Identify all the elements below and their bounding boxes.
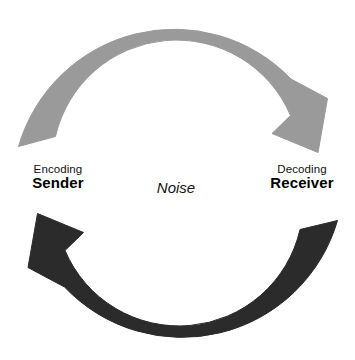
receiver-label-group: Decoding Receiver [250, 163, 354, 192]
noise-label-group: Noise [126, 180, 226, 196]
sender-to-receiver-arrow-shape [19, 29, 328, 152]
noise-label: Noise [126, 180, 226, 196]
communication-cycle-diagram: Encoding Sender Noise Decoding Receiver [0, 0, 355, 360]
receiver-to-sender-arrow [28, 214, 338, 338]
receiver-to-sender-arrow-shape [28, 214, 338, 338]
receiver-label: Receiver [250, 175, 354, 191]
sender-to-receiver-arrow [19, 29, 328, 152]
sender-label-group: Encoding Sender [4, 163, 112, 192]
sender-label: Sender [4, 175, 112, 191]
